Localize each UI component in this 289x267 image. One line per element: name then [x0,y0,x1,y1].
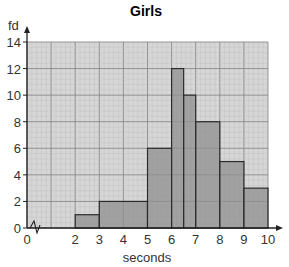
y-ticks: 02468101214 [7,35,27,236]
x-tick-label: 0 [23,232,30,247]
histogram-bar [99,201,147,228]
histogram-bar [172,69,184,228]
x-tick-label: 5 [144,232,151,247]
histogram-bar [184,95,196,228]
y-tick-label: 6 [14,141,21,156]
y-tick-label: 2 [14,194,21,209]
y-tick-label: 0 [14,221,21,236]
y-tick-label: 10 [7,88,21,103]
x-tick-label: 7 [192,232,199,247]
x-tick-label: 9 [240,232,247,247]
x-axis-label: seconds [123,250,172,265]
y-tick-label: 4 [14,168,21,183]
histogram-bar [75,215,99,228]
x-tick-label: 10 [261,232,275,247]
x-tick-label: 8 [216,232,223,247]
y-tick-label: 14 [7,35,21,50]
x-tick-label: 6 [168,232,175,247]
histogram-bar [220,162,244,228]
x-axis-arrow-icon [276,225,283,231]
histogram-bar [244,188,268,228]
chart-title: Girls [130,3,162,19]
histogram-bar [196,122,220,228]
histogram-chart: Girls fd 02468101214 02345678910 seconds [0,0,289,267]
y-axis-label: fd [8,18,19,33]
x-tick-label: 3 [96,232,103,247]
y-tick-label: 8 [14,115,21,130]
y-axis-arrow-icon [24,26,30,33]
x-tick-label: 2 [72,232,79,247]
x-ticks: 02345678910 [23,232,275,247]
y-tick-label: 12 [7,62,21,77]
x-tick-label: 4 [120,232,127,247]
histogram-bar [148,148,172,228]
